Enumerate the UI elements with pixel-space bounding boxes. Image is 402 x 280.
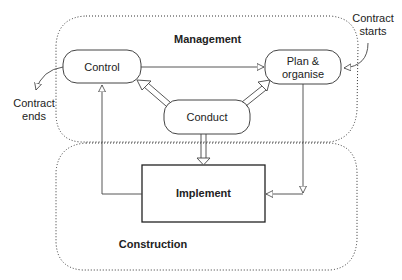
control-label: Control — [63, 61, 141, 74]
contract-ends-line1: Contract — [10, 97, 58, 110]
implement-label: Implement — [142, 187, 265, 200]
management-label: Management — [174, 33, 234, 46]
contract-ends-arrow — [36, 67, 63, 90]
contract-starts-line1: Contract — [348, 12, 398, 25]
contract-ends-line2: ends — [10, 110, 58, 123]
plan-label-line1: Plan & — [265, 55, 341, 68]
implement-to-control-arrow — [102, 85, 142, 194]
contract-starts-arrow — [344, 43, 368, 68]
conduct-label: Conduct — [164, 111, 250, 124]
contract-starts-line2: starts — [348, 25, 398, 38]
construction-label: Construction — [118, 238, 188, 251]
conduct-to-plan-arrow — [242, 80, 270, 106]
conduct-to-control-arrow — [137, 80, 170, 106]
plan-label-line2: organise — [265, 68, 341, 81]
conduct-to-implement-arrow — [197, 134, 210, 165]
